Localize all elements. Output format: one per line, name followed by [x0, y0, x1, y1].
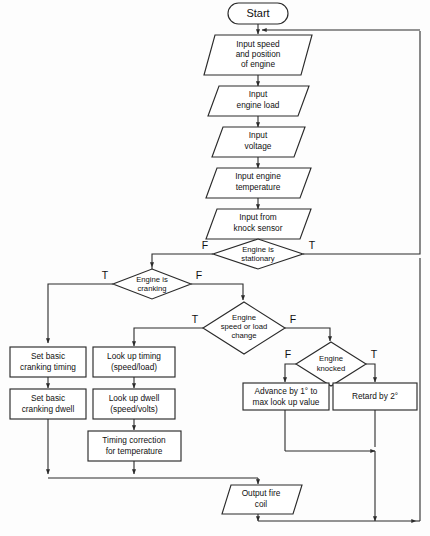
node-lookup-timing-line1: Look up timing — [107, 351, 161, 361]
connector-stationary-false-to-cranking — [152, 254, 213, 267]
node-input-voltage[interactable]: Input voltage — [212, 127, 305, 157]
node-input-engine-load[interactable]: Input engine load — [208, 86, 309, 116]
connector-speedload-true-to-lookup — [134, 328, 203, 346]
node-input-knock-line1: Input from — [239, 212, 276, 222]
node-stationary-line1: Engine is — [242, 245, 274, 254]
flowchart-canvas: Start Input speed and position of engine… — [0, 0, 430, 536]
node-set-cranking-timing-line2: cranking timing — [20, 362, 76, 372]
branch-speedload-true: T — [192, 313, 199, 325]
node-input-knock-sensor[interactable]: Input from knock sensor — [206, 209, 311, 239]
node-engine-knocked[interactable]: Engine knocked F T — [285, 342, 378, 386]
node-timing-correction-line1: Timing correction — [102, 435, 166, 445]
node-input-speed-line3: of engine — [241, 59, 276, 69]
branch-knocked-true: T — [371, 348, 378, 360]
flowchart-svg: Start Input speed and position of engine… — [0, 0, 430, 536]
node-input-speed-line1: Input speed — [236, 39, 280, 49]
node-lookup-dwell-line2: (speed/volts) — [110, 404, 158, 414]
node-timing-correction[interactable]: Timing correction for temperature — [88, 431, 181, 461]
node-input-load-line2: engine load — [237, 100, 280, 110]
node-retard-timing[interactable]: Retard by 2° — [333, 383, 417, 410]
node-stationary-line2: stationary — [241, 254, 274, 263]
node-set-basic-cranking-dwell[interactable]: Set basic cranking dwell — [10, 389, 86, 419]
node-input-engine-temperature[interactable]: Input engine temperature — [206, 168, 311, 198]
node-input-speed-line2: and position — [236, 49, 281, 59]
node-start[interactable]: Start — [228, 3, 288, 24]
branch-stationary-false: F — [202, 239, 208, 251]
connector-stationary-true-return — [303, 31, 420, 254]
node-cranking-line2: cranking — [137, 284, 166, 293]
branch-cranking-true: T — [102, 269, 109, 281]
node-input-voltage-line2: voltage — [245, 141, 272, 151]
node-retard-line1: Retard by 2° — [352, 391, 398, 401]
node-look-up-timing[interactable]: Look up timing (speed/load) — [93, 347, 175, 377]
node-timing-correction-line2: for temperature — [106, 446, 163, 456]
node-output-line1: Output fire — [242, 488, 281, 498]
branch-stationary-true: T — [309, 239, 316, 251]
node-advance-line1: Advance by 1° to — [255, 386, 318, 396]
node-input-voltage-line1: Input — [249, 130, 268, 140]
node-set-cranking-timing-line1: Set basic — [31, 351, 65, 361]
node-advance-timing[interactable]: Advance by 1° to max look up value — [243, 383, 329, 410]
node-cranking-line1: Engine is — [136, 275, 168, 284]
node-set-basic-cranking-timing[interactable]: Set basic cranking timing — [10, 347, 86, 377]
node-speedload-line3: change — [231, 331, 256, 340]
node-output-line2: coil — [255, 499, 268, 509]
node-input-temp-line2: temperature — [236, 182, 281, 192]
branch-knocked-false: F — [285, 348, 291, 360]
node-knocked-line2: knocked — [317, 364, 346, 373]
node-set-cranking-dwell-line1: Set basic — [31, 393, 65, 403]
node-speedload-line1: Engine — [232, 313, 256, 322]
node-engine-speed-or-load-change[interactable]: Engine speed or load change T F — [192, 302, 296, 354]
node-input-load-line1: Input — [249, 89, 268, 99]
node-advance-line2: max look up value — [253, 397, 320, 407]
branch-cranking-false: F — [196, 269, 202, 281]
node-lookup-timing-line2: (speed/load) — [111, 362, 157, 372]
connector-knocked-true-to-retard — [366, 364, 375, 382]
node-knocked-line1: Engine — [319, 354, 343, 363]
node-engine-is-stationary[interactable]: Engine is stationary F T — [202, 239, 316, 269]
connector-cranking-true-to-left-column — [48, 284, 113, 343]
node-input-knock-line2: knock sensor — [234, 223, 283, 233]
node-lookup-dwell-line1: Look up dwell — [109, 393, 160, 403]
node-input-temp-line1: Input engine — [235, 171, 281, 181]
node-look-up-dwell[interactable]: Look up dwell (speed/volts) — [93, 389, 175, 419]
branch-speedload-false: F — [290, 313, 296, 325]
node-start-label: Start — [246, 7, 269, 19]
node-input-speed[interactable]: Input speed and position of engine — [204, 35, 312, 75]
node-output-fire-coil[interactable]: Output fire coil — [222, 485, 302, 514]
node-speedload-line2: speed or load — [221, 322, 268, 331]
connector-knocked-false-to-advance — [285, 364, 296, 382]
node-engine-is-cranking[interactable]: Engine is cranking T F — [102, 269, 202, 299]
connector-cranking-false-to-speedload — [191, 284, 243, 300]
node-set-cranking-dwell-line2: cranking dwell — [22, 404, 75, 414]
connector-speedload-false-to-knocked — [285, 328, 330, 341]
